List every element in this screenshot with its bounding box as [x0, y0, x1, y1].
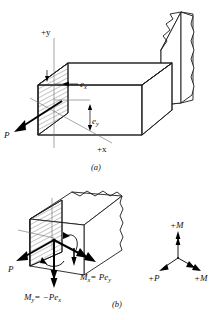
- load-label-a: P: [3, 130, 10, 140]
- key-right-label: +M: [194, 273, 208, 283]
- panel-b: P Mx= Pey M: [7, 191, 123, 309]
- load-arrow-head: [14, 120, 26, 132]
- eccentric-loading-figure: +y +x ex ey P: [0, 0, 214, 320]
- axis-y-label: +y: [41, 27, 51, 37]
- figure-root: +y +x ex ey P: [0, 0, 214, 320]
- sign-convention-key: +M +P +M: [148, 220, 208, 283]
- moment-y-label: My= −Pex: [23, 292, 61, 303]
- key-up-label: +M: [170, 220, 184, 230]
- key-up-arrow: +M: [170, 220, 184, 258]
- panel-a: +y +x ex ey P: [3, 12, 194, 172]
- moment-x-label: Mx= Pey: [79, 272, 111, 283]
- caption-a: (a): [91, 162, 101, 172]
- key-left-arrowhead: [159, 264, 169, 271]
- key-left-label: +P: [148, 273, 160, 283]
- key-right-arrow: +M: [178, 258, 208, 283]
- load-label-b: P: [7, 264, 14, 274]
- load-arrow-head-b: [16, 251, 28, 261]
- caption-b: (b): [112, 299, 122, 309]
- key-left-arrow: +P: [148, 258, 178, 283]
- axis-x-label: +x: [97, 144, 107, 154]
- key-right-arrowhead-2: [186, 261, 195, 268]
